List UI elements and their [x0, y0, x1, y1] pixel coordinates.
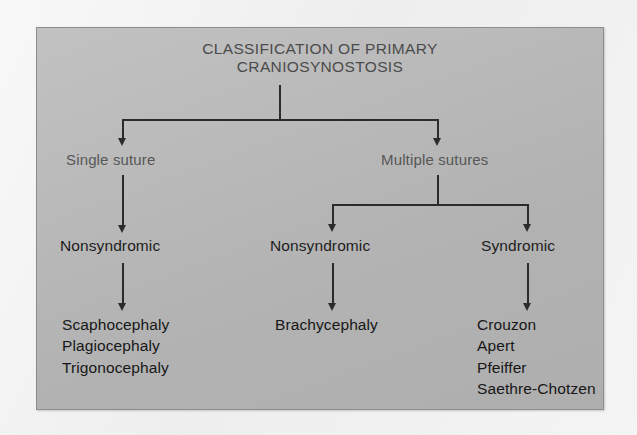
leaf-list-nonsyndromic-multiple: Brachycephaly [275, 316, 378, 337]
connector-title-stem [279, 85, 281, 120]
diagram-title-line-1: CLASSIFICATION OF PRIMARY [37, 40, 603, 58]
node-syndromic: Syndromic [481, 237, 555, 255]
connector-top-split-bar [122, 119, 438, 121]
connector-single-suture-to-nonsyndromic [122, 175, 124, 227]
leaf-item: Brachycephaly [275, 316, 378, 334]
leaf-list-syndromic: Crouzon Apert Pfeiffer Saethre-Chotzen [477, 316, 596, 401]
leaf-item: Plagiocephaly [62, 337, 169, 355]
leaf-item: Pfeiffer [477, 359, 596, 377]
arrowhead-nonsyndromic-single-to-leaves [118, 303, 126, 311]
diagram-title-line-2: CRANIOSYNOSTOSIS [37, 58, 603, 76]
arrowhead-to-single-suture [118, 138, 126, 146]
connector-to-multiple-sutures [437, 119, 439, 140]
connector-nonsyndromic-single-to-leaves [122, 263, 124, 305]
node-single-suture: Single suture [66, 151, 156, 169]
connector-multiple-sutures-split-bar [332, 204, 528, 206]
arrowhead-to-nonsyndromic-multiple [328, 224, 336, 232]
connector-nonsyndromic-multiple-to-leaf [332, 263, 334, 305]
node-nonsyndromic-single: Nonsyndromic [60, 237, 160, 255]
node-nonsyndromic-single-label: Nonsyndromic [60, 237, 160, 254]
leaf-item: Crouzon [477, 316, 596, 334]
connector-multiple-sutures-stem [437, 175, 439, 205]
node-syndromic-label: Syndromic [481, 237, 555, 254]
node-single-suture-label: Single suture [66, 151, 156, 168]
diagram-panel: CLASSIFICATION OF PRIMARY CRANIOSYNOSTOS… [36, 27, 604, 410]
diagram-title: CLASSIFICATION OF PRIMARY CRANIOSYNOSTOS… [37, 40, 603, 77]
leaf-item: Trigonocephaly [62, 359, 169, 377]
arrowhead-nonsyndromic-multiple-to-leaf [328, 303, 336, 311]
node-multiple-sutures-label: Multiple sutures [381, 151, 488, 168]
leaf-item: Saethre-Chotzen [477, 380, 596, 398]
connector-to-nonsyndromic-multiple [332, 204, 334, 226]
node-multiple-sutures: Multiple sutures [381, 151, 488, 169]
leaf-item: Scaphocephaly [62, 316, 169, 334]
connector-syndromic-to-leaves [527, 263, 529, 305]
node-nonsyndromic-multiple-label: Nonsyndromic [270, 237, 370, 254]
arrowhead-to-multiple-sutures [433, 138, 441, 146]
leaf-item: Apert [477, 337, 596, 355]
node-nonsyndromic-multiple: Nonsyndromic [270, 237, 370, 255]
connector-to-syndromic [527, 204, 529, 226]
page-background: CLASSIFICATION OF PRIMARY CRANIOSYNOSTOS… [0, 0, 637, 435]
leaf-list-single-suture: Scaphocephaly Plagiocephaly Trigonocepha… [62, 316, 169, 380]
arrowhead-to-syndromic [523, 224, 531, 232]
arrowhead-single-suture-to-nonsyndromic [118, 225, 126, 233]
connector-to-single-suture [122, 119, 124, 140]
arrowhead-syndromic-to-leaves [523, 303, 531, 311]
